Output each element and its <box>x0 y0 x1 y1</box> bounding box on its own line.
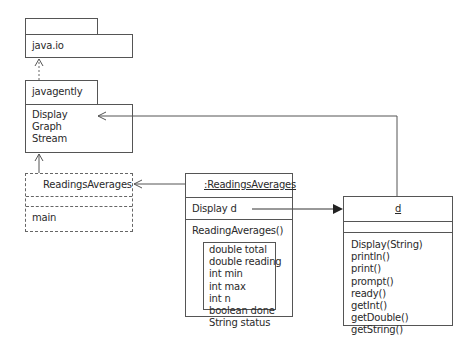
operation: print() <box>351 263 423 275</box>
dependency-arrow-javagently-to-javaio <box>35 59 43 80</box>
operation: Display(String) <box>351 239 423 251</box>
class-stream[interactable]: Stream <box>32 133 67 145</box>
object-readings-averages[interactable]: :ReadingsAverages Display d ReadingAvera… <box>185 173 293 317</box>
local-var: int max <box>209 281 281 293</box>
operation: prompt() <box>351 276 423 288</box>
package-javagently[interactable]: Display Graph Stream <box>25 104 133 153</box>
divider <box>186 219 292 220</box>
divider <box>344 232 452 233</box>
object-d[interactable]: d Display(String) println() print() prom… <box>343 196 453 326</box>
operation: ready() <box>351 288 423 300</box>
local-var: boolean done <box>209 305 281 317</box>
operation: getInt() <box>351 300 423 312</box>
operation-main: main <box>32 212 56 224</box>
dependency-arrow-readingsaverages-to-javagently <box>35 154 43 173</box>
object-name-d: d <box>395 203 401 215</box>
operation: println() <box>351 251 423 263</box>
class-readings-averages[interactable]: ReadingsAverages main <box>25 173 133 232</box>
divider <box>186 197 292 198</box>
operation-constructor: ReadingAverages() <box>192 225 283 237</box>
local-var: double total <box>209 244 281 256</box>
class-graph[interactable]: Graph <box>32 121 67 133</box>
class-display[interactable]: Display <box>32 109 67 121</box>
package-name-javagently: javagently <box>32 86 82 98</box>
instance-arrow-object-to-class <box>134 180 185 188</box>
class-name-readings-averages: ReadingsAverages <box>43 179 132 191</box>
operation: getDouble() <box>351 312 423 324</box>
package-tab-java-io <box>25 18 98 35</box>
local-var: double reading <box>209 256 281 268</box>
local-var: String status <box>209 317 281 329</box>
local-variables-box: double total double reading int min int … <box>203 242 276 310</box>
divider <box>26 206 132 207</box>
object-name-readings-averages: :ReadingsAverages <box>204 179 296 191</box>
operation: getString() <box>351 324 423 336</box>
local-var: int n <box>209 293 281 305</box>
divider <box>344 221 452 222</box>
package-java-io[interactable]: java.io <box>25 34 133 58</box>
package-name-java-io: java.io <box>32 40 64 52</box>
local-var: int min <box>209 268 281 280</box>
attribute-display-d: Display d <box>192 203 237 215</box>
package-tab-javagently: javagently <box>25 80 98 105</box>
divider <box>26 196 132 197</box>
